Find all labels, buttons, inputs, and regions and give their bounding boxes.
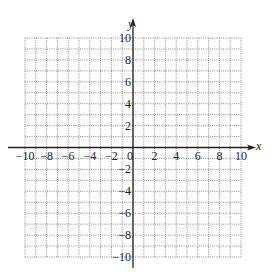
x-tick-labels: −10−8−6−4−20246810 bbox=[16, 149, 247, 163]
y-tick-label: −4 bbox=[118, 184, 131, 198]
x-tick-label: 8 bbox=[216, 149, 222, 163]
y-tick-label: −8 bbox=[118, 228, 131, 242]
x-tick-label: 2 bbox=[152, 149, 158, 163]
x-tick-label: −6 bbox=[62, 149, 75, 163]
x-tick-label: −10 bbox=[16, 149, 35, 163]
y-tick-label: −10 bbox=[112, 250, 131, 264]
y-tick-label: 2 bbox=[125, 119, 131, 133]
y-tick-label: 10 bbox=[119, 31, 131, 45]
y-tick-label: 6 bbox=[125, 75, 131, 89]
x-tick-label: −4 bbox=[83, 149, 96, 163]
x-tick-label: −2 bbox=[105, 149, 118, 163]
x-tick-label: 6 bbox=[195, 149, 201, 163]
y-tick-label: −2 bbox=[118, 162, 131, 176]
x-tick-label: 4 bbox=[173, 149, 179, 163]
x-tick-label: 10 bbox=[235, 149, 247, 163]
coordinate-plane: −10−8−6−4−20246810 −10−8−6−4−2246810 x y bbox=[0, 0, 276, 276]
x-tick-label: −8 bbox=[40, 149, 53, 163]
y-tick-label: −6 bbox=[118, 206, 131, 220]
x-axis-label: x bbox=[255, 139, 262, 153]
axes bbox=[8, 18, 256, 268]
y-tick-label: 4 bbox=[125, 97, 131, 111]
y-axis-label: y bbox=[127, 17, 134, 31]
y-tick-label: 8 bbox=[125, 53, 131, 67]
x-tick-label: 0 bbox=[127, 149, 133, 163]
